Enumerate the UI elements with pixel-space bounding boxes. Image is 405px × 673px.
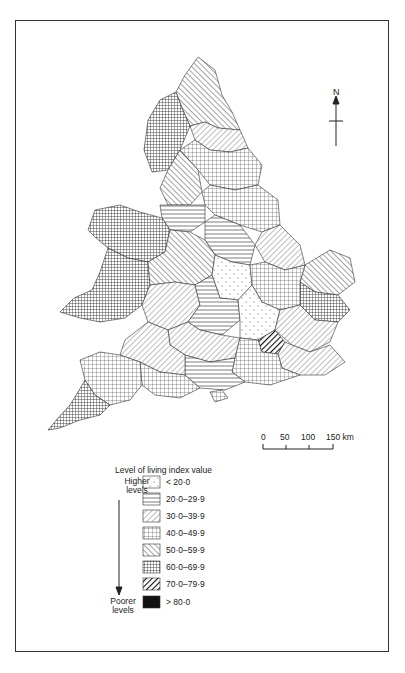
swatch-70-79 bbox=[143, 578, 160, 590]
legend-title: Level of living index value bbox=[115, 465, 212, 475]
legend-item: 60·0–69·9 bbox=[166, 560, 205, 574]
scale-bar bbox=[263, 444, 333, 449]
swatch-60-69 bbox=[143, 561, 160, 573]
legend-item: > 80·0 bbox=[166, 595, 190, 609]
scale-tick-0: 0 bbox=[261, 432, 266, 442]
scale-tick-150: 150 km bbox=[326, 432, 354, 442]
legend-swatches bbox=[143, 476, 160, 608]
legend-item: 40·0–49·9 bbox=[166, 526, 205, 540]
swatch-30-39 bbox=[143, 510, 160, 522]
swatch-40-49 bbox=[143, 527, 160, 539]
swatch-50-59 bbox=[143, 544, 160, 556]
legend-top-label: Higher levels bbox=[117, 477, 157, 495]
legend-item: 50·0–59·9 bbox=[166, 543, 205, 557]
legend-item: 20·0–29·9 bbox=[166, 492, 205, 506]
north-arrow bbox=[329, 96, 343, 146]
legend-item: 30·0–39·9 bbox=[166, 509, 205, 523]
scale-tick-100: 100 bbox=[301, 432, 315, 442]
legend-arrow bbox=[116, 500, 122, 595]
north-label: N bbox=[333, 87, 340, 97]
legend-bottom-label: Poorer levels bbox=[103, 597, 143, 615]
map-regions bbox=[48, 57, 355, 430]
legend-item: < 20·0 bbox=[166, 475, 190, 489]
scale-tick-50: 50 bbox=[280, 432, 289, 442]
swatch-gt80 bbox=[143, 596, 160, 608]
legend-item: 70·0–79·9 bbox=[166, 577, 205, 591]
